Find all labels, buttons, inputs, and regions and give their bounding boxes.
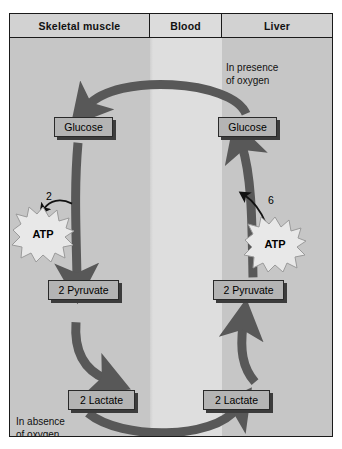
- note-in-presence-of-oxygen: In presence of oxygen: [226, 62, 278, 87]
- atp-burst-muscle: ATP: [12, 206, 74, 262]
- atp-coefficient-liver: 6: [268, 194, 274, 206]
- node-muscle-lactate: 2 Lactate: [68, 390, 135, 410]
- node-liver-glucose: Glucose: [218, 117, 277, 137]
- node-muscle-glucose: Glucose: [54, 117, 113, 137]
- arrow-liver-glucose-to-muscle-glucose: [88, 84, 246, 113]
- note-in-absence-of-oxygen: In absence of oxygen: [16, 416, 65, 436]
- node-liver-lactate: 2 Lactate: [203, 390, 270, 410]
- atp-label-liver: ATP: [244, 216, 306, 272]
- atp-label-muscle: ATP: [12, 206, 74, 262]
- arrow-muscle-lactate-to-liver-lactate: [88, 409, 236, 433]
- cori-cycle-diagram: Skeletal muscle Blood Liver: [0, 0, 342, 449]
- diagram-body: ATP 2 ATP 6 Glucose 2 Pyruvate 2 Lactate…: [10, 38, 332, 436]
- atp-coefficient-muscle: 2: [46, 190, 52, 202]
- atp-burst-liver: ATP: [244, 216, 306, 272]
- compartment-header: Skeletal muscle Blood Liver: [10, 14, 332, 38]
- node-muscle-pyruvate: 2 Pyruvate: [48, 280, 119, 300]
- column-header-skeletal-muscle: Skeletal muscle: [10, 14, 150, 37]
- column-header-blood: Blood: [150, 14, 222, 37]
- column-header-liver: Liver: [222, 14, 332, 37]
- arrow-liver-lactate-to-pyruvate: [242, 325, 255, 382]
- diagram-frame: Skeletal muscle Blood Liver: [9, 13, 333, 437]
- arrow-muscle-pyruvate-to-lactate: [76, 322, 106, 379]
- node-liver-pyruvate: 2 Pyruvate: [213, 280, 284, 300]
- arrow-muscle-glucose-to-pyruvate: [76, 143, 78, 278]
